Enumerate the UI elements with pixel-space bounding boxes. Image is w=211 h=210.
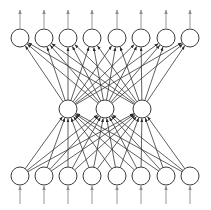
node-input-8 bbox=[181, 167, 199, 185]
connection-edge bbox=[94, 47, 104, 100]
node-input-5 bbox=[108, 167, 126, 185]
input-feed-arrows bbox=[20, 186, 190, 204]
connection-edge bbox=[107, 47, 116, 100]
node-output-7 bbox=[157, 29, 175, 47]
connection-edge bbox=[74, 45, 134, 103]
node-hidden-2 bbox=[96, 100, 114, 118]
connection-edge bbox=[97, 46, 136, 102]
nodes-group bbox=[11, 29, 199, 185]
connection-edge bbox=[148, 117, 185, 169]
output-emit-arrows bbox=[20, 10, 190, 28]
neural-network-canvas bbox=[0, 0, 211, 210]
node-hidden-3 bbox=[133, 100, 151, 118]
node-input-4 bbox=[83, 167, 101, 185]
connection-edge bbox=[147, 46, 185, 102]
node-output-6 bbox=[132, 29, 150, 47]
connection-edge bbox=[25, 46, 63, 102]
node-hidden-1 bbox=[59, 100, 77, 118]
node-output-3 bbox=[59, 29, 77, 47]
edges-hidden-to-output bbox=[25, 43, 184, 105]
node-input-2 bbox=[35, 167, 53, 185]
connection-edge bbox=[73, 46, 111, 102]
connection-edge bbox=[25, 117, 62, 169]
edges-input-to-hidden bbox=[25, 114, 185, 172]
node-output-4 bbox=[83, 29, 101, 47]
node-output-2 bbox=[35, 29, 53, 47]
node-output-1 bbox=[11, 29, 29, 47]
connection-edge bbox=[75, 45, 136, 103]
node-input-3 bbox=[59, 167, 77, 185]
node-input-7 bbox=[157, 167, 175, 185]
node-output-8 bbox=[181, 29, 199, 47]
node-input-1 bbox=[11, 167, 29, 185]
node-output-5 bbox=[108, 29, 126, 47]
connection-edge bbox=[74, 117, 112, 169]
neural-network-diagram bbox=[0, 0, 211, 210]
node-input-6 bbox=[132, 167, 150, 185]
